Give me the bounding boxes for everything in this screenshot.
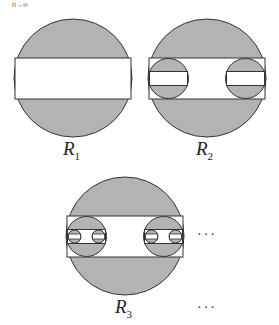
fractal-figures: [0, 0, 279, 325]
label-r1-sub: 1: [75, 150, 81, 162]
figure-r1: [14, 19, 132, 137]
label-r2: R2: [196, 138, 213, 162]
label-r2-letter: R: [196, 138, 208, 159]
label-r2-sub: 2: [208, 150, 214, 162]
figure-r2: [148, 19, 266, 137]
ellipsis-label: ···: [197, 300, 217, 316]
figure-r3: [66, 177, 184, 295]
ellipsis-figure: ···: [197, 227, 217, 243]
label-r3: R3: [115, 296, 132, 320]
label-r1: R1: [63, 138, 80, 162]
label-r1-letter: R: [63, 138, 75, 159]
label-r3-sub: 3: [127, 308, 133, 320]
label-r3-letter: R: [115, 296, 127, 317]
